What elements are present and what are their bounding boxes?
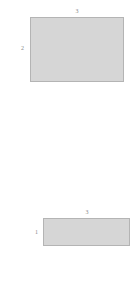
bottom-rectangle-height-label: 1 [35,229,38,235]
top-rectangle-width-label: 3 [76,8,79,14]
bottom-rectangle-width-label: 3 [86,209,89,215]
diagram-canvas: 3 2 3 1 [0,0,139,301]
top-rectangle-height-label: 2 [21,45,24,51]
bottom-rectangle[interactable] [43,218,130,246]
top-rectangle[interactable] [30,17,124,82]
